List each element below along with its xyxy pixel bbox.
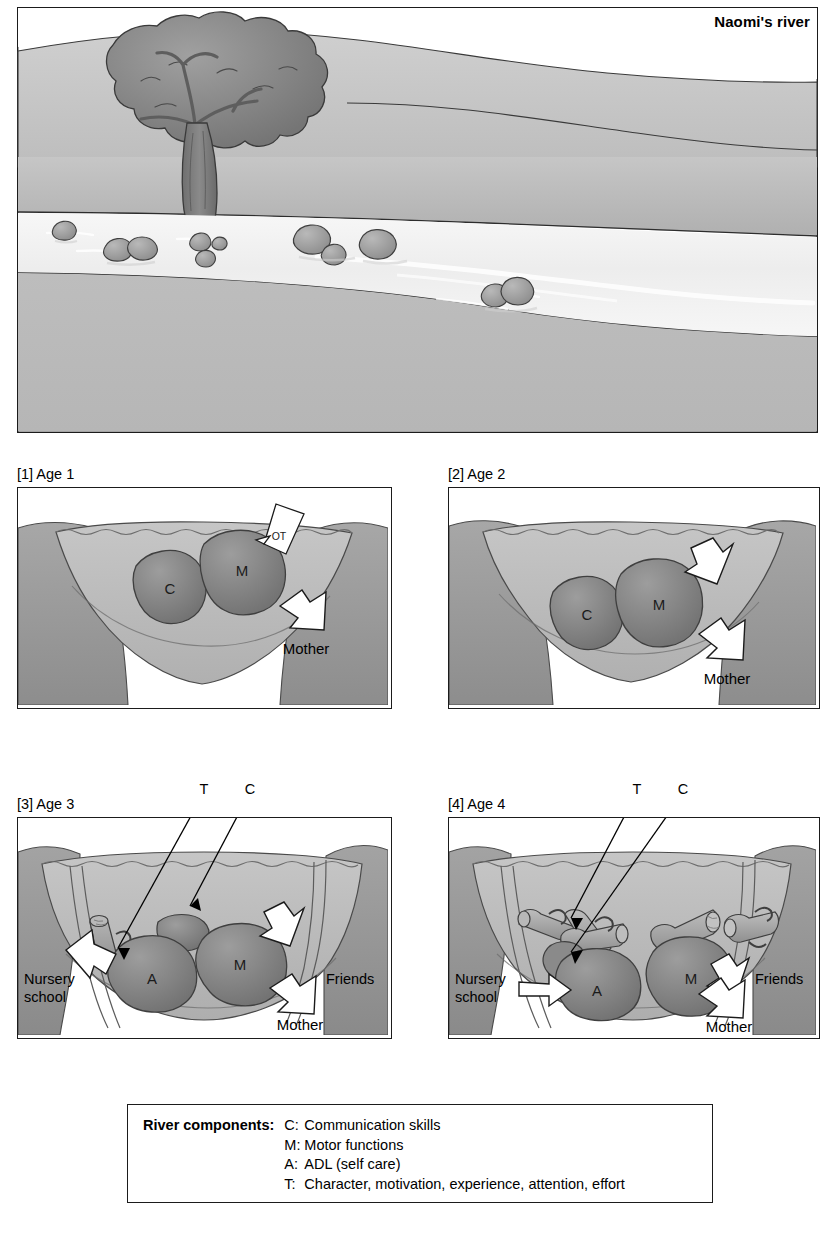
legend-heading: River components:: [143, 1116, 284, 1136]
landscape-illustration: [17, 7, 818, 433]
panel-4-illustration: A M: [449, 818, 816, 1035]
label-nursery-school-line1: Nursery: [24, 971, 76, 987]
legend-desc-m: Motor functions: [304, 1136, 403, 1156]
stone-label-m: M: [234, 956, 247, 973]
panel-age-2: [2] Age 2: [448, 466, 820, 709]
panel-1-illustration: C M OT Mother: [18, 488, 388, 705]
panel-3-frame: T C: [17, 817, 392, 1039]
legend-key-c: C:: [284, 1116, 304, 1136]
panel-age-3: [3] Age 3 T C: [17, 796, 392, 1039]
panel-1-frame: C M OT Mother: [17, 487, 392, 709]
panel-2-frame: C M Mother: [448, 487, 820, 709]
stone-label-a: A: [147, 970, 157, 987]
arrow-mother-label: Mother: [706, 1018, 753, 1035]
panel-2-caption: [2] Age 2: [448, 466, 820, 482]
arrow-ot-label: OT: [272, 530, 287, 542]
callout-label-t: T: [633, 781, 642, 797]
panel-3-illustration: A M: [18, 818, 388, 1035]
callout-label-c: C: [245, 781, 255, 797]
panel-4-frame: T C: [448, 817, 820, 1039]
callout-label-c: C: [678, 781, 688, 797]
legend-item-t: T: Character, motivation, experience, at…: [284, 1175, 625, 1195]
legend-items: C: Communication skills M: Motor functio…: [284, 1116, 625, 1194]
panel-age-1: [1] Age 1: [17, 466, 392, 709]
legend-desc-a: ADL (self care): [304, 1155, 400, 1175]
stone-adl: A: [555, 949, 640, 1021]
legend-desc-c: Communication skills: [304, 1116, 440, 1136]
panel-1-caption: [1] Age 1: [17, 466, 392, 482]
arrow-mother-label: Mother: [283, 640, 330, 657]
figure-root: Naomi's river: [0, 0, 829, 1240]
legend-key-t: T:: [284, 1175, 304, 1195]
arrow-mother-label: Mother: [704, 670, 751, 687]
callout-label-t: T: [200, 781, 209, 797]
legend-box: River components: C: Communication skill…: [127, 1104, 713, 1203]
arrow-mother-label: Mother: [277, 1016, 324, 1033]
label-nursery-school-line2: school: [24, 989, 66, 1005]
panel-2-illustration: C M Mother: [449, 488, 816, 705]
legend-item-c: C: Communication skills: [284, 1116, 625, 1136]
label-friends: Friends: [755, 971, 803, 987]
landscape-scene: Naomi's river: [17, 7, 818, 433]
stone-label-m: M: [653, 596, 666, 613]
stone-label-c: C: [582, 606, 593, 623]
label-friends: Friends: [326, 971, 374, 987]
legend-key-a: A:: [284, 1155, 304, 1175]
legend-key-m: M:: [284, 1136, 304, 1156]
legend-item-a: A: ADL (self care): [284, 1155, 625, 1175]
legend-desc-t: Character, motivation, experience, atten…: [304, 1175, 625, 1195]
legend-item-m: M: Motor functions: [284, 1136, 625, 1156]
stone-label-m: M: [236, 562, 249, 579]
stone-label-m: M: [685, 970, 698, 987]
stone-label-a: A: [592, 982, 602, 999]
panel-age-4: [4] Age 4 T C: [448, 796, 820, 1039]
label-nursery-school-line1: Nursery: [455, 971, 507, 987]
label-nursery-school-line2: school: [455, 989, 497, 1005]
stone-label-c: C: [165, 580, 176, 597]
figure-title: Naomi's river: [714, 13, 810, 30]
